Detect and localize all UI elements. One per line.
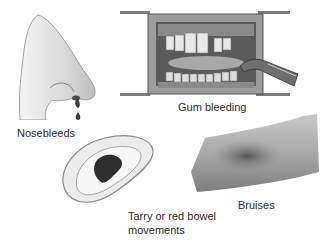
nose-panel <box>10 10 100 120</box>
bedpan-stool-icon <box>55 130 165 210</box>
arm-panel <box>185 112 321 194</box>
bedpan-panel <box>55 130 165 210</box>
bleeding-symptoms-figure: Nosebleeds <box>0 0 321 240</box>
bowel-label-line-1: Tarry or red bowel <box>128 210 216 223</box>
mouth-gum-bleeding-icon <box>118 8 298 98</box>
bruises-label: Bruises <box>238 199 275 212</box>
arm-bruise-icon <box>185 112 321 194</box>
bowel-label-line-2: movements <box>128 224 185 237</box>
nose-bleeding-icon <box>10 10 100 120</box>
mouth-panel <box>118 8 298 98</box>
